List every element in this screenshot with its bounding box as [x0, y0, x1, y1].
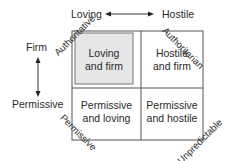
axis-label-hostile: Hostile	[162, 8, 194, 20]
horizontal-double-arrow-icon	[105, 12, 154, 17]
axis-label-permissive: Permissive	[12, 98, 63, 110]
axis-label-firm: Firm	[26, 41, 47, 53]
cell-permissive-and-loving: Permissive and loving	[72, 99, 141, 125]
cell-line2: and hostile	[141, 112, 203, 125]
cell-line1: Loving	[75, 47, 133, 60]
cell-line2: and loving	[72, 112, 141, 125]
cell-line1: Permissive	[72, 99, 141, 112]
cell-line2: and firm	[75, 60, 133, 73]
cell-loving-and-firm: Loving and firm	[75, 47, 133, 73]
cell-permissive-and-hostile: Permissive and hostile	[141, 99, 203, 125]
cell-line1: Permissive	[141, 99, 203, 112]
vertical-double-arrow-icon	[36, 57, 41, 97]
